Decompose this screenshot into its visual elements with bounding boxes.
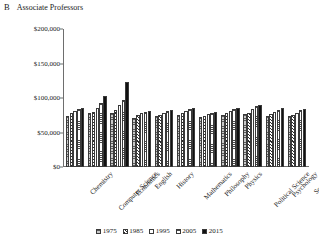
legend-label: 1975 <box>103 227 117 235</box>
chart-legend: 19751985199520052015 <box>0 227 319 235</box>
bar-group <box>197 29 219 167</box>
bar-2015 <box>170 110 173 167</box>
legend-swatch-icon <box>123 229 128 234</box>
bar-2015 <box>103 96 106 167</box>
bar-group <box>86 29 108 167</box>
legend-label: 2015 <box>209 227 223 235</box>
page-title: Associate Professors <box>17 3 83 13</box>
legend-item-1975: 1975 <box>96 227 117 235</box>
bar-group <box>153 29 175 167</box>
legend-swatch-icon <box>176 229 181 234</box>
bar-2015 <box>281 108 284 167</box>
y-axis-ticks <box>0 29 63 167</box>
x-axis-tick-label: History <box>175 170 196 191</box>
legend-swatch-icon <box>149 229 154 234</box>
bar-group <box>108 29 130 167</box>
figure-title-row: B Associate Professors <box>4 2 83 13</box>
bar-2015 <box>81 108 84 167</box>
bar-2015 <box>258 105 261 167</box>
x-axis-labels: ChemistryComputer ScienceEconomicsEnglis… <box>63 168 309 216</box>
legend-item-1985: 1985 <box>123 227 144 235</box>
legend-label: 1995 <box>156 227 170 235</box>
legend-item-2005: 2005 <box>176 227 197 235</box>
bar-2015 <box>125 82 128 167</box>
bar-2015 <box>192 108 195 167</box>
bar-group <box>219 29 241 167</box>
figure-panel-b: B Associate Professors $200,000$150,000$… <box>0 0 319 238</box>
bar-group <box>242 29 264 167</box>
bar-2015 <box>214 112 217 167</box>
legend-item-2015: 2015 <box>202 227 223 235</box>
legend-label: 1985 <box>129 227 143 235</box>
bar-group <box>131 29 153 167</box>
legend-swatch-icon <box>202 229 207 234</box>
bar-2015 <box>236 108 239 167</box>
legend-item-1995: 1995 <box>149 227 170 235</box>
bar-group <box>64 29 86 167</box>
bar-2015 <box>303 109 306 167</box>
legend-label: 2005 <box>182 227 196 235</box>
x-axis-tick-label: Chemistry <box>88 170 114 196</box>
bar-2015 <box>148 111 151 167</box>
bar-groups-container <box>63 29 309 167</box>
panel-letter: B <box>4 2 10 12</box>
bar-group <box>175 29 197 167</box>
bar-group <box>286 29 308 167</box>
legend-swatch-icon <box>96 229 101 234</box>
bar-group <box>264 29 286 167</box>
